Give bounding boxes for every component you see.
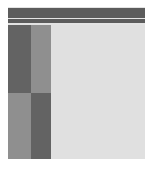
sidebar-cell-top-right-label: Sidebar Panel Top Right — [31, 25, 32, 26]
sidebar-cell-bottom-right[interactable]: Sidebar Panel Bottom Right — [31, 93, 51, 159]
sidebar-cell-top-left-label: Sidebar Panel Top Left — [8, 25, 9, 26]
sidebar-cell-top-right[interactable]: Sidebar Panel Top Right — [31, 25, 51, 93]
toolbar[interactable]: Toolbar — [8, 19, 145, 23]
sidebar-cell-top-left[interactable]: Sidebar Panel Top Left — [8, 25, 31, 93]
main-content-label: Main Content Area — [51, 25, 52, 26]
sidebar-cell-bottom-left-label: Sidebar Panel Bottom Left — [8, 93, 9, 94]
main-content-area[interactable]: Main Content Area — [51, 25, 145, 159]
sidebar-cell-bottom-left[interactable]: Sidebar Panel Bottom Left — [8, 93, 31, 159]
title-bar-label: Title Bar — [8, 8, 9, 9]
content-panel: Title Bar Toolbar Sidebar Panel Top Left… — [8, 7, 145, 159]
title-bar[interactable]: Title Bar — [8, 8, 145, 18]
sidebar: Sidebar Panel Top Left Sidebar Panel Top… — [8, 25, 51, 159]
toolbar-label: Toolbar — [8, 19, 9, 20]
sidebar-cell-bottom-right-label: Sidebar Panel Bottom Right — [31, 93, 32, 94]
app-window: Title Bar Toolbar Sidebar Panel Top Left… — [0, 0, 153, 172]
